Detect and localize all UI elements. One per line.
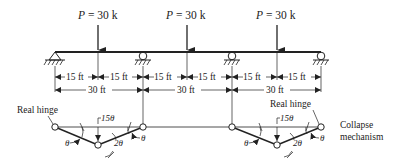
caption-line-2: mechanism: [340, 132, 384, 142]
right-real-hinge-icon: [318, 124, 324, 130]
angle-2theta-left: 2θ: [114, 138, 124, 148]
span-label-1: 30 ft: [88, 85, 106, 95]
angle-theta-right-1: θ: [244, 138, 249, 148]
left-support-hinge-icon: [140, 124, 146, 130]
dim-label-1: 15 ft: [66, 72, 84, 82]
real-hinge-label-right: Real hinge: [270, 99, 311, 109]
pin-support-icon: [44, 52, 65, 65]
dim-label-2: 15 ft: [110, 72, 128, 82]
roller-support-3-icon: [313, 52, 329, 65]
collapse-mechanism-diagram: P = 30 k P = 30 k P = 30 k: [0, 0, 401, 166]
real-hinge-leader-right: [313, 110, 319, 124]
deflection-label-left: 15θ: [101, 113, 115, 123]
dim-label-3: 15 ft: [154, 72, 172, 82]
right-plastic-hinge-icon: [274, 142, 280, 148]
half-span-dimensions: 15 ft 15 ft 15 ft 15 ft 15 ft 15 ft: [55, 72, 321, 82]
deflection-label-right: 15θ: [280, 113, 294, 123]
roller-support-2-icon: [224, 52, 240, 65]
roller-support-1-icon: [135, 52, 151, 65]
load-label-1: P = 30 k: [77, 9, 118, 21]
span-dimensions: 30 ft 30 ft 30 ft: [55, 85, 321, 95]
real-hinge-label-left: Real hinge: [17, 105, 58, 115]
load-arrows: [98, 25, 277, 50]
right-support-hinge-icon: [229, 124, 235, 130]
dim-label-4: 15 ft: [198, 72, 216, 82]
load-label-3: P = 30 k: [255, 9, 296, 21]
load-labels: P = 30 k P = 30 k P = 30 k: [77, 9, 296, 21]
left-real-hinge-icon: [52, 124, 58, 130]
span-label-2: 30 ft: [177, 85, 195, 95]
angle-2theta-right: 2θ: [293, 138, 303, 148]
annotations: Real hinge Real hinge Collapse mechanism: [17, 99, 384, 142]
angle-theta-left-2: θ: [141, 133, 146, 143]
real-hinge-leader-left: [48, 116, 53, 124]
left-plastic-hinge-icon: [95, 142, 101, 148]
left-span-mechanism: 15θ θ 2θ θ: [52, 113, 146, 158]
load-label-2: P = 30 k: [165, 9, 206, 21]
right-span-mechanism: 15θ θ 2θ θ: [229, 113, 325, 158]
dim-label-6: 15 ft: [288, 72, 306, 82]
caption-line-1: Collapse: [340, 120, 373, 130]
angle-theta-left-1: θ: [65, 138, 70, 148]
span-label-3: 30 ft: [266, 85, 284, 95]
dim-label-5: 15 ft: [243, 72, 261, 82]
angle-theta-right-2: θ: [320, 133, 325, 143]
